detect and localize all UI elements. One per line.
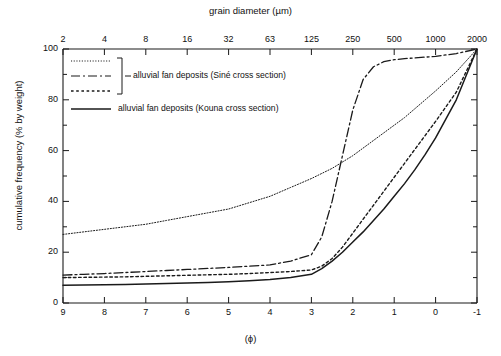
- y-tick-60: 60: [48, 145, 58, 155]
- top-tick-2: 2: [60, 34, 65, 44]
- bottom-tick-0: 0: [433, 307, 438, 317]
- y-tick-40: 40: [48, 195, 58, 205]
- top-tick-16: 16: [182, 34, 192, 44]
- bottom-tick-3: 3: [309, 307, 314, 317]
- top-axis-title: grain diameter (µm): [0, 5, 501, 16]
- top-tick-500: 500: [387, 34, 402, 44]
- bottom-tick-1: 1: [392, 307, 397, 317]
- top-tick-8: 8: [143, 34, 148, 44]
- bottom-tick-neg1: -1: [473, 307, 481, 317]
- legend-marks: [71, 58, 131, 109]
- legend-label-kouna: alluvial fan deposits (Kouna cross secti…: [118, 103, 279, 113]
- bottom-tick-5: 5: [226, 307, 231, 317]
- bottom-tick-4: 4: [267, 307, 272, 317]
- data-curves: [63, 49, 477, 285]
- figure-container: grain diameter (µm) (ϕ) cumulative frequ…: [0, 0, 501, 356]
- bottom-tick-8: 8: [102, 307, 107, 317]
- chart-svg: [63, 49, 477, 303]
- curve-solid: [63, 49, 477, 285]
- top-tick-32: 32: [224, 34, 234, 44]
- plot-area: alluvial fan deposits (Siné cross sectio…: [63, 49, 477, 303]
- legend-label-sine: alluvial fan deposits (Siné cross sectio…: [133, 70, 286, 80]
- y-tick-20: 20: [48, 246, 58, 256]
- top-tick-63: 63: [265, 34, 275, 44]
- bottom-tick-7: 7: [143, 307, 148, 317]
- curve-dash-dot: [63, 49, 477, 275]
- top-tick-250: 250: [345, 34, 360, 44]
- y-tick-80: 80: [48, 94, 58, 104]
- y-tick-100: 100: [43, 43, 58, 53]
- bottom-tick-2: 2: [350, 307, 355, 317]
- bottom-tick-9: 9: [60, 307, 65, 317]
- legend-group-bracket: [117, 58, 122, 94]
- top-tick-125: 125: [304, 34, 319, 44]
- top-tick-2000: 2000: [467, 34, 487, 44]
- bottom-tick-6: 6: [185, 307, 190, 317]
- y-tick-0: 0: [53, 297, 58, 307]
- y-axis-title: cumulative frequency (% by weight): [13, 56, 24, 256]
- bottom-axis-title: (ϕ): [0, 333, 501, 344]
- top-tick-4: 4: [102, 34, 107, 44]
- top-tick-1000: 1000: [426, 34, 446, 44]
- curve-dotted-coarse: [63, 49, 477, 278]
